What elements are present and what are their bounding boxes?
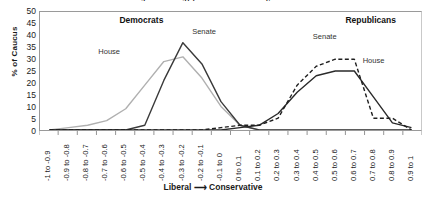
y-tick-label: 10 (10, 103, 36, 111)
y-tick-label: 40 (10, 31, 36, 39)
y-tick-label: 50 (10, 7, 36, 15)
x-tick-label: -0.9 to -0.8 (63, 144, 71, 181)
x-axis-ticks (39, 131, 422, 135)
y-tick-label: 45 (10, 19, 36, 27)
x-tick-label: 0.3 to 0.4 (293, 149, 301, 181)
y-tick-label: 20 (10, 79, 36, 87)
x-tick-label: -0.4 to -0.3 (158, 144, 166, 181)
x-tick-label: -0.1 to 0 (216, 153, 224, 181)
x-tick-label: -0.7 to -0.6 (101, 144, 109, 181)
y-axis-tick-labels: 05101520253035404550 (0, 0, 36, 198)
series-label-democrats-house: House (98, 47, 120, 56)
chart-container: Distribution of 111th Congress Ideology … (0, 0, 426, 198)
x-tick-label: -0.6 to -0.5 (120, 144, 128, 181)
y-tick-label: 15 (10, 91, 36, 99)
series-lines (40, 12, 421, 130)
y-tick-label: 0 (10, 127, 36, 135)
x-tick-label: 0.9 to 1 (407, 156, 415, 181)
x-tick-label: 0.5 to 0.6 (331, 149, 339, 181)
plot-area (39, 11, 422, 131)
series-label-republicans-senate: Senate (313, 32, 337, 41)
y-tick-label: 35 (10, 43, 36, 51)
x-axis-tick-labels: -1 to -0.9-0.9 to -0.8-0.8 to -0.7-0.7 t… (39, 131, 422, 181)
x-tick-label: 0.2 to 0.3 (273, 149, 281, 181)
series-line-democrats-house (50, 57, 412, 130)
series-label-democrats-senate: Senate (192, 27, 216, 36)
x-tick-label: -1 to -0.9 (44, 151, 52, 181)
group-label-republicans: Republicans (345, 15, 396, 25)
x-tick-label: -0.2 to -0.1 (197, 144, 205, 181)
x-tick-label: 0.6 to 0.7 (350, 149, 358, 181)
x-tick-label: 0.1 to 0.2 (254, 149, 262, 181)
y-tick-label: 30 (10, 55, 36, 63)
x-tick-label: -0.5 to -0.4 (139, 144, 147, 181)
group-label-democrats: Democrats (119, 15, 163, 25)
x-tick-label: 0 to 0.1 (235, 156, 243, 181)
chart-title: Distribution of 111th Congress Ideology … (0, 0, 426, 1)
series-line-republicans-senate (50, 59, 412, 130)
x-tick-label: 0.8 to 0.9 (388, 149, 396, 181)
x-tick-label: -0.3 to -0.2 (178, 144, 186, 181)
x-tick-label: 0.4 to 0.5 (312, 149, 320, 181)
y-tick-label: 25 (10, 67, 36, 75)
x-tick-label: -0.8 to -0.7 (82, 144, 90, 181)
y-tick-label: 5 (10, 115, 36, 123)
x-tick-label: 0.7 to 0.8 (369, 149, 377, 181)
x-axis-title: Liberal ⟶ Conservative (0, 182, 426, 192)
series-label-republicans-house: House (363, 56, 385, 65)
